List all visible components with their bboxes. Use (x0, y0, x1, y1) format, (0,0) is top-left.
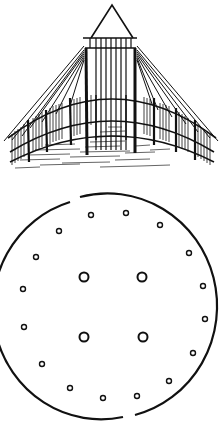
small-posts (21, 211, 208, 401)
outer-wall (0, 193, 217, 419)
small-post (22, 325, 27, 330)
small-post (21, 287, 26, 292)
tent-elevation-drawing (0, 0, 224, 180)
circular-plan (0, 190, 224, 422)
small-post (201, 284, 206, 289)
large-post (80, 273, 89, 282)
small-post (101, 396, 106, 401)
small-post (124, 211, 129, 216)
ground-plan-drawing (0, 190, 224, 422)
small-post (203, 317, 208, 322)
tent-illustration (0, 0, 224, 180)
roof-peak (83, 5, 137, 48)
small-post (135, 394, 140, 399)
large-post (138, 273, 147, 282)
small-post (40, 362, 45, 367)
small-post (34, 255, 39, 260)
large-post (80, 333, 89, 342)
small-post (68, 386, 73, 391)
small-post (158, 223, 163, 228)
small-post (89, 213, 94, 218)
small-post (191, 351, 196, 356)
small-post (167, 379, 172, 384)
large-post (139, 333, 148, 342)
small-post (187, 251, 192, 256)
large-posts (80, 273, 148, 342)
small-post (57, 229, 62, 234)
